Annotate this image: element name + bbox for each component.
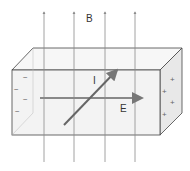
label-e: E <box>120 103 127 114</box>
hall-effect-diagram: B E I − − − − + + + + <box>0 0 190 171</box>
svg-text:+: + <box>162 87 167 96</box>
label-i: I <box>93 75 96 86</box>
svg-text:−: − <box>23 95 28 104</box>
svg-text:+: + <box>162 110 167 119</box>
svg-text:−: − <box>15 107 20 116</box>
top-face <box>12 48 182 70</box>
label-b: B <box>86 13 93 24</box>
svg-text:+: + <box>170 98 175 107</box>
svg-text:−: − <box>14 85 19 94</box>
svg-text:−: − <box>23 73 28 82</box>
svg-text:+: + <box>170 75 175 84</box>
